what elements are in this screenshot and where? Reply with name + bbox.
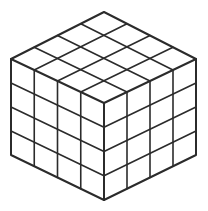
isometric-cube-figure bbox=[0, 0, 208, 211]
cube-drawing-canvas bbox=[0, 0, 208, 211]
